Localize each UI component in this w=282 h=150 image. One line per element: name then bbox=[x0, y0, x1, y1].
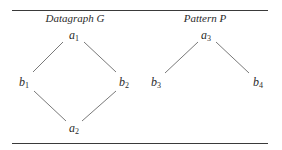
edge-a3-b4 bbox=[216, 42, 249, 73]
graph-edges bbox=[0, 0, 282, 150]
edge-b2-a2 bbox=[82, 91, 116, 121]
edge-a3-b3 bbox=[165, 42, 198, 73]
edge-a1-b2 bbox=[84, 42, 116, 72]
edge-a1-b1 bbox=[33, 42, 63, 72]
bottom-rule bbox=[12, 143, 268, 144]
edge-b1-a2 bbox=[34, 91, 66, 121]
